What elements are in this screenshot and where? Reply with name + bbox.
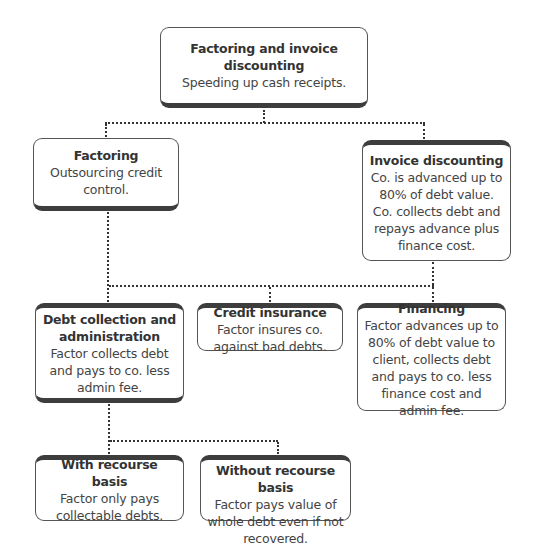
node-description: Outsourcing credit control. bbox=[40, 164, 172, 198]
node-credit-insurance: Credit insurance Factor insures co. agai… bbox=[197, 303, 343, 351]
connector-to-invoice-discounting bbox=[423, 124, 425, 139]
connector-to-credit-insurance bbox=[269, 287, 271, 302]
node-factoring-and-invoice-discounting: Factoring and invoice discounting Speedi… bbox=[160, 27, 368, 108]
node-description: Factor pays value of whole debt even if … bbox=[207, 496, 344, 547]
node-invoice-discounting: Invoice discounting Co. is advanced up t… bbox=[362, 140, 511, 261]
connector-to-factoring bbox=[105, 124, 107, 137]
node-title: Credit insurance bbox=[213, 304, 326, 321]
node-debt-collection-and-administration: Debt collection and administration Facto… bbox=[35, 303, 184, 403]
node-title: Factoring bbox=[74, 147, 139, 164]
node-description: Factor advances up to 80% of debt value … bbox=[364, 317, 499, 419]
node-description: Co. is advanced up to 80% of debt value.… bbox=[369, 169, 504, 254]
node-title: Factoring and invoice discounting bbox=[167, 40, 361, 74]
node-with-recourse-basis: With recourse basis Factor only pays col… bbox=[35, 455, 184, 521]
node-title: With recourse basis bbox=[42, 456, 177, 490]
node-without-recourse-basis: Without recourse basis Factor pays value… bbox=[200, 455, 351, 521]
connector-debt-collection-down bbox=[108, 404, 110, 454]
connector-level1-horizontal bbox=[105, 122, 425, 124]
connector-level3-horizontal bbox=[110, 440, 278, 442]
connector-level2-horizontal bbox=[109, 285, 434, 287]
node-title: Invoice discounting bbox=[370, 152, 504, 169]
node-description: Speeding up cash receipts. bbox=[182, 74, 346, 91]
connector-invoice-discounting-down bbox=[432, 262, 434, 285]
node-description: Factor insures co. against bad debts. bbox=[204, 321, 336, 355]
connector-factoring-down bbox=[107, 212, 109, 302]
node-factoring: Factoring Outsourcing credit control. bbox=[33, 138, 179, 211]
node-title: Financing bbox=[398, 300, 465, 317]
node-title: Debt collection and administration bbox=[42, 311, 177, 345]
node-description: Factor only pays collectable debts. bbox=[42, 490, 177, 524]
node-title: Without recourse basis bbox=[207, 462, 344, 496]
connector-to-without-recourse bbox=[277, 442, 279, 454]
node-description: Factor collects debt and pays to co. les… bbox=[42, 345, 177, 396]
node-financing: Financing Factor advances up to 80% of d… bbox=[357, 303, 506, 411]
